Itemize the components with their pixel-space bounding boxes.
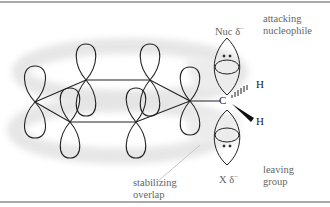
leaving-label-line1: leaving	[263, 164, 294, 176]
leaving-group-symbol: X δ−	[219, 171, 238, 186]
leaving-label-line2: group	[263, 176, 288, 188]
attacking-label-line1: attacking	[263, 13, 301, 25]
carbon-atom: C	[219, 94, 226, 106]
attacking-label-line2: nucleophile	[263, 25, 312, 37]
nucleophile-label: Nuc δ−	[215, 23, 244, 38]
stabilizing-label-line1: stabilizing	[133, 177, 177, 189]
stabilizing-label-line2: overlap	[133, 189, 165, 201]
sn2-benzylic-overlap-diagram: Nuc δ− attacking nucleophile C H H X δ− …	[0, 0, 330, 207]
hydrogen-bottom: H	[256, 115, 264, 127]
hydrogen-top: H	[256, 78, 264, 90]
